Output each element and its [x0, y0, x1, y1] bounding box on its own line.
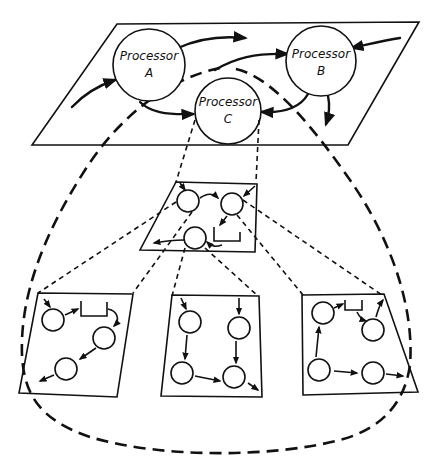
arrow-a-to-c — [140, 102, 193, 114]
projection-line — [38, 202, 176, 293]
bottom-panel-center — [161, 295, 262, 397]
arrow-into-a — [72, 80, 115, 107]
projection-line — [237, 215, 303, 295]
arrow-to-b — [215, 54, 287, 70]
processor-b-label: Processor — [292, 47, 351, 61]
arrow-b-to-c — [262, 94, 308, 112]
processor-a-label: Processor — [120, 49, 179, 63]
arrow-into-b — [352, 38, 400, 48]
projection-line — [172, 248, 185, 296]
top-level-plane: Processor A Processor B Processor C — [32, 22, 419, 145]
bottom-panel-left — [19, 293, 133, 397]
processor-a-id: A — [144, 66, 153, 80]
processor-c-id: C — [224, 112, 233, 126]
processor-b: Processor B — [286, 26, 356, 96]
bottom-panel-right — [302, 294, 418, 395]
projection-line — [176, 120, 195, 182]
processor-a: Processor A — [113, 29, 185, 101]
processor-hierarchy-diagram: Processor A Processor B Processor C — [0, 0, 441, 467]
arrow-b-out — [326, 96, 329, 124]
buffer-box — [81, 301, 107, 316]
projection-line — [205, 248, 258, 296]
projection-line — [256, 120, 259, 182]
projection-line — [243, 200, 382, 295]
processor-c-label: Processor — [199, 95, 258, 109]
arrow-a-out — [178, 37, 245, 48]
processor-c: Processor C — [195, 78, 261, 144]
buffer-box — [345, 300, 362, 310]
processor-b-id: B — [317, 64, 325, 78]
buffer-box — [214, 227, 240, 241]
